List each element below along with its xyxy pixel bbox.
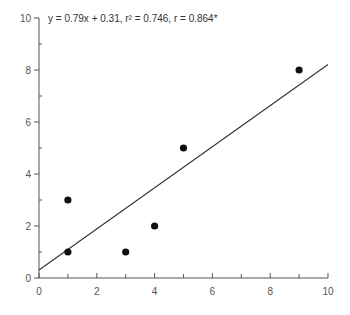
- data-point: [151, 222, 158, 229]
- scatter-chart: 02468100246810 y = 0.79x + 0.31, r² = 0.…: [0, 0, 350, 315]
- data-point: [64, 248, 71, 255]
- y-tick-label: 0: [25, 273, 31, 284]
- x-tick-label: 8: [267, 286, 273, 297]
- x-tick-label: 2: [94, 286, 100, 297]
- y-tick-label: 6: [25, 117, 31, 128]
- x-tick-label: 10: [322, 286, 334, 297]
- y-tick-label: 4: [25, 169, 31, 180]
- x-tick-label: 0: [36, 286, 42, 297]
- x-tick-label: 4: [152, 286, 158, 297]
- fit-line: [39, 65, 328, 270]
- regression-equation: y = 0.79x + 0.31, r² = 0.746, r = 0.864*: [48, 13, 218, 24]
- data-points: [64, 66, 302, 255]
- y-tick-label: 2: [25, 221, 31, 232]
- data-point: [122, 248, 129, 255]
- y-tick-label: 10: [20, 13, 32, 24]
- data-point: [180, 144, 187, 151]
- y-tick-label: 8: [25, 65, 31, 76]
- x-tick-label: 6: [210, 286, 216, 297]
- regression-line: [39, 65, 328, 270]
- data-point: [296, 66, 303, 73]
- data-point: [64, 196, 71, 203]
